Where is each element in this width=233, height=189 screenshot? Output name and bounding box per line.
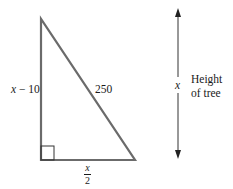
- right-angle-marker: [41, 146, 54, 160]
- height-label-line1: Height: [191, 74, 222, 86]
- right-triangle: [41, 19, 135, 160]
- hypotenuse-label: 250: [95, 84, 112, 96]
- base-denominator: 2: [85, 176, 90, 186]
- height-label-line2: of tree: [191, 88, 221, 100]
- left-side-label: x − 10: [11, 84, 40, 96]
- base-label: x 2: [84, 163, 91, 186]
- base-numerator: x: [85, 163, 89, 173]
- left-side-rest: − 10: [16, 83, 40, 95]
- arrow-down-icon: [175, 150, 181, 159]
- arrow-up-icon: [175, 8, 181, 17]
- arrow-var-label: x: [175, 80, 180, 92]
